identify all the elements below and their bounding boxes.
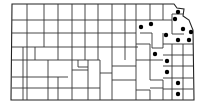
occurrence-dot [176, 38, 180, 42]
occurrence-dot [181, 27, 185, 31]
occurrence-dot [176, 81, 180, 85]
kansas-county-map [0, 0, 206, 112]
occurrence-dot [164, 33, 168, 37]
occurrence-dot [187, 38, 191, 42]
occurrence-dot [189, 30, 193, 34]
occurrence-dot [165, 59, 169, 63]
occurrence-dot [149, 22, 153, 26]
occurrence-dot [153, 52, 157, 56]
occurrence-dot [176, 10, 180, 14]
occurrence-dot [173, 17, 177, 21]
occurrence-dot [165, 70, 169, 74]
occurrence-dot [139, 25, 143, 29]
occurrence-dots [139, 10, 193, 96]
occurrence-dot [176, 92, 180, 96]
county-boundaries [11, 4, 194, 100]
